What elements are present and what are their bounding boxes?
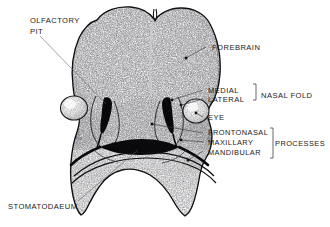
embryo-drawing: OLFACTORY PIT FOREBRAIN MEDIAL LATERAL N…: [8, 0, 325, 227]
label-processes: PROCESSES: [275, 139, 325, 148]
label-forebrain: FOREBRAIN: [212, 43, 260, 52]
leader-dot-mandibular: [187, 159, 190, 162]
label-frontonasal: FRONTONASAL: [208, 128, 268, 137]
embryo-face-illustration: OLFACTORY PIT FOREBRAIN MEDIAL LATERAL N…: [0, 0, 330, 227]
leader-dot-eye: [195, 112, 198, 115]
label-lateral: LATERAL: [208, 95, 244, 104]
processes-bracket: [270, 128, 273, 158]
label-nasal-fold: NASAL FOLD: [261, 91, 313, 100]
figure-canvas: OLFACTORY PIT FOREBRAIN MEDIAL LATERAL N…: [0, 0, 330, 227]
leader-dot-medial: [171, 99, 174, 102]
label-medial: MEDIAL: [208, 86, 239, 95]
label-olfactory-pit-line1: OLFACTORY: [30, 16, 80, 25]
label-olfactory-pit-line2: PIT: [30, 27, 43, 36]
eye-left: [61, 96, 88, 120]
leader-dot-frontonasal: [151, 123, 154, 126]
label-eye: EYE: [208, 113, 225, 122]
eye-right: [183, 99, 209, 123]
leader-dot-lateral: [180, 104, 183, 107]
label-stomatodaeum: STOMATODAEUM: [8, 202, 78, 211]
leader-dot-forebrain: [185, 57, 188, 60]
label-maxillary: MAXILLARY: [208, 138, 253, 147]
nasal-fold-bracket: [253, 84, 256, 100]
label-mandibular: MANDIBULAR: [208, 148, 261, 157]
leader-dot-maxillary: [180, 139, 183, 142]
